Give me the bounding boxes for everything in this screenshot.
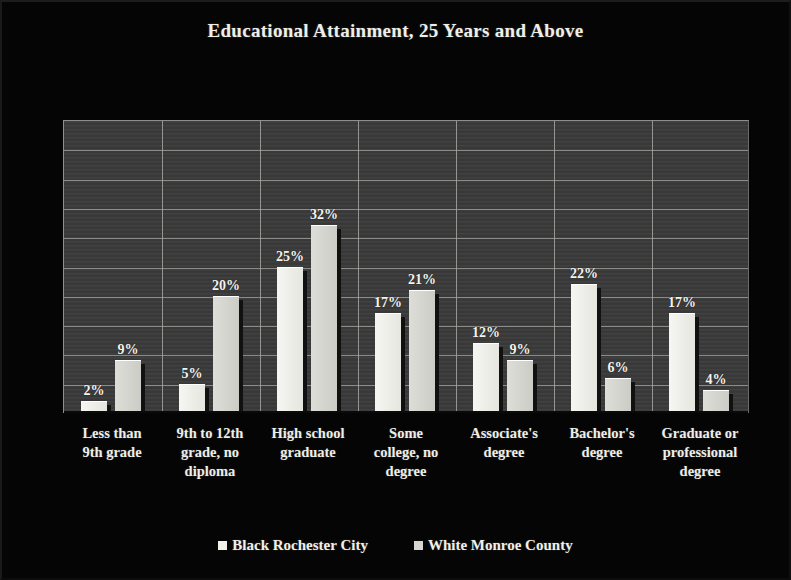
bar-body [507,360,533,413]
x-axis-label: Somecollege, nodegree [357,424,455,481]
legend-entry[interactable]: Black Rochester City [218,537,368,554]
bar-shadow [631,382,635,413]
bar-value-label: 2% [84,384,105,398]
x-axis-label-line: High school [259,424,357,443]
bar: 22% [571,284,601,413]
x-axis-label-line: Some [357,424,455,443]
chart-legend: Black Rochester CityWhite Monroe County [0,537,791,554]
bar-value-label: 17% [374,296,402,310]
bar-value-label: 25% [276,250,304,264]
legend-label: White Monroe County [428,537,573,554]
chart-title: Educational Attainment, 25 Years and Abo… [0,20,791,42]
bar-value-label: 5% [182,367,203,381]
x-axis-label: Associate'sdegree [455,424,553,462]
x-axis-label-line: Bachelor's [553,424,651,443]
bar-body [115,360,141,413]
x-axis-label-line: degree [651,462,749,481]
bar: 9% [507,360,537,413]
x-axis-label: Bachelor'sdegree [553,424,651,462]
bar: 5% [179,384,209,413]
bar-body [703,390,729,413]
x-axis-label: Less than9th grade [63,424,161,462]
bar-shadow [597,288,601,413]
bar: 17% [669,313,699,413]
x-axis-label-line: degree [553,443,651,462]
bar-value-label: 12% [472,326,500,340]
bar-value-label: 6% [608,361,629,375]
bar-body [473,343,499,413]
x-axis-label: High schoolgraduate [259,424,357,462]
bar-shadow [205,388,209,413]
bar: 25% [277,267,307,414]
bar: 6% [605,378,635,413]
x-axis-label-line: diploma [161,462,259,481]
bar-value-label: 17% [668,296,696,310]
legend-entry[interactable]: White Monroe County [414,537,573,554]
category-group: 2%9% [64,121,162,413]
bar-body [277,267,303,414]
bar-value-label: 20% [212,279,240,293]
category-group: 22%6% [554,121,652,413]
legend-swatch-icon [218,541,227,550]
bar-body [179,384,205,413]
plot-area: 2%9%5%20%25%32%17%21%12%9%22%6%17%4% [63,120,749,413]
bar-value-label: 32% [310,208,338,222]
bar-value-label: 4% [706,373,727,387]
x-axis-label-line: grade, no [161,443,259,462]
bar-value-label: 9% [510,343,531,357]
category-group: 12%9% [456,121,554,413]
bar-body [605,378,631,413]
x-axis-label-line: professional [651,443,749,462]
bar-body [669,313,695,413]
bar: 32% [311,225,341,413]
bar: 20% [213,296,243,413]
category-group: 25%32% [260,121,358,413]
bar-body [571,284,597,413]
x-axis-label-line: 9th grade [63,443,161,462]
x-axis-label-line: Graduate or [651,424,749,443]
bar-shadow [239,300,243,413]
bar-shadow [141,364,145,413]
bar-shadow [337,229,341,413]
bar-shadow [533,364,537,413]
legend-swatch-icon [414,541,423,550]
bar-value-label: 9% [118,343,139,357]
bar: 9% [115,360,145,413]
x-axis-label-line: college, no [357,443,455,462]
bar-shadow [695,317,699,413]
bar-body [311,225,337,413]
x-axis-label-line: graduate [259,443,357,462]
bar-body [409,290,435,413]
bar: 4% [703,390,733,413]
bar-body [375,313,401,413]
x-axis-label-line: Less than [63,424,161,443]
bar-value-label: 22% [570,267,598,281]
x-axis-label: 9th to 12thgrade, nodiploma [161,424,259,481]
legend-label: Black Rochester City [232,537,368,554]
bar-shadow [303,271,307,414]
x-axis-label-line: Associate's [455,424,553,443]
x-axis-label: Graduate orprofessionaldegree [651,424,749,481]
bar: 12% [473,343,503,413]
category-group: 5%20% [162,121,260,413]
category-group: 17%4% [652,121,750,413]
bar-value-label: 21% [408,273,436,287]
chart-slide: Educational Attainment, 25 Years and Abo… [0,0,791,580]
axis-baseline [64,411,748,413]
bar: 17% [375,313,405,413]
x-axis-label-line: 9th to 12th [161,424,259,443]
bar-body [213,296,239,413]
x-axis-label-line: degree [455,443,553,462]
bar-shadow [435,294,439,413]
x-axis-labels: Less than9th grade9th to 12thgrade, nodi… [63,424,749,504]
x-axis-label-line: degree [357,462,455,481]
bar-shadow [499,347,503,413]
bar-shadow [401,317,405,413]
category-group: 17%21% [358,121,456,413]
bar: 21% [409,290,439,413]
